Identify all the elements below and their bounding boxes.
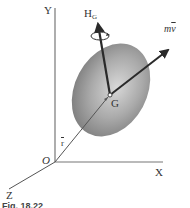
linear-momentum-label: mv (164, 24, 176, 34)
x-axis-label: X (155, 167, 163, 178)
position-vector-label: r (61, 139, 64, 148)
origin-label: O (42, 155, 50, 166)
angular-momentum-label: HG (84, 8, 97, 21)
z-axis (9, 162, 55, 189)
center-of-mass-label: G (111, 98, 119, 109)
angular-momentum-label-sub: G (92, 13, 97, 21)
y-axis-label: Y (44, 5, 52, 16)
linear-momentum-label-v: v (171, 23, 175, 34)
z-axis-label: Z (6, 190, 13, 201)
angular-momentum-label-main: H (84, 7, 92, 19)
figure-caption: Fig. 18.22 (2, 202, 43, 208)
rigid-body (56, 30, 166, 150)
